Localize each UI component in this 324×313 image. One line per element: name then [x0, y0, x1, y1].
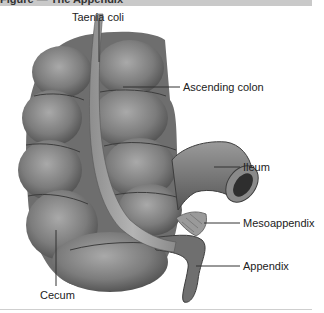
label-mesoappendix: Mesoappendix: [243, 217, 315, 229]
figure-footer-line: [0, 309, 312, 310]
label-appendix: Appendix: [243, 260, 289, 272]
label-ileum: Ileum: [243, 161, 270, 173]
ileum-shape: [172, 142, 265, 210]
label-taenia-coli: Taenia coli: [72, 11, 124, 23]
label-ascending-colon: Ascending colon: [183, 81, 264, 93]
label-cecum: Cecum: [40, 289, 75, 301]
